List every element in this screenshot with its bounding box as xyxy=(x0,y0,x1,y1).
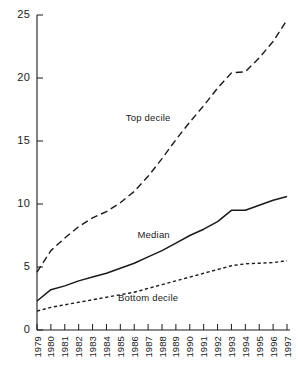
annotation-bottom-decile: Bottom decile xyxy=(118,292,178,303)
x-tick-label: 1983 xyxy=(87,336,98,358)
x-tick-label: 1986 xyxy=(129,336,140,358)
x-tick-label: 1992 xyxy=(212,336,223,358)
y-axis-ticks xyxy=(37,15,43,330)
x-tick-label: 1991 xyxy=(198,336,209,358)
x-axis-ticks xyxy=(37,324,287,330)
x-tick-label: 1988 xyxy=(157,336,168,358)
x-tick-label: 1979 xyxy=(32,336,43,358)
chart-container: 0510152025 19791980198119821983198419851… xyxy=(0,0,298,375)
y-tick-label: 5 xyxy=(24,260,30,272)
x-tick-label: 1993 xyxy=(226,336,237,358)
line-chart: 0510152025 19791980198119821983198419851… xyxy=(0,0,298,375)
y-tick-label: 25 xyxy=(17,8,30,20)
x-tick-label: 1990 xyxy=(184,336,195,358)
x-tick-label: 1989 xyxy=(170,336,181,358)
x-tick-label: 1994 xyxy=(240,336,251,358)
y-tick-label: 15 xyxy=(17,134,30,146)
series-bottom-decile xyxy=(37,261,287,311)
x-tick-label: 1982 xyxy=(73,336,84,358)
x-tick-label: 1995 xyxy=(254,336,265,358)
x-tick-label: 1981 xyxy=(59,336,70,358)
data-series-group xyxy=(37,20,287,311)
x-tick-label: 1980 xyxy=(45,336,56,358)
y-axis-tick-labels: 0510152025 xyxy=(17,8,30,335)
x-axis-tick-labels: 1979198019811982198319841985198619871988… xyxy=(32,336,293,358)
x-tick-label: 1997 xyxy=(282,336,293,358)
annotation-top-decile: Top decile xyxy=(126,112,171,123)
y-tick-label: 10 xyxy=(17,197,30,209)
x-tick-label: 1996 xyxy=(268,336,279,358)
y-tick-label: 20 xyxy=(17,71,30,83)
x-tick-label: 1987 xyxy=(143,336,154,358)
x-tick-label: 1984 xyxy=(101,336,112,358)
annotation-median: Median xyxy=(137,229,169,240)
x-tick-label: 1985 xyxy=(115,336,126,358)
y-tick-label: 0 xyxy=(24,323,30,335)
series-annotations-group: Top decileMedianBottom decile xyxy=(118,112,178,303)
